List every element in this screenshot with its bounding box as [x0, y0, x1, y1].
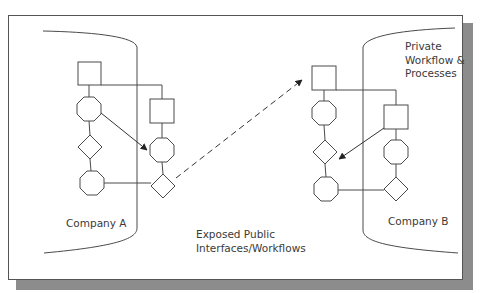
- b-square-1: [312, 66, 336, 90]
- company-a-label: Company A: [66, 217, 126, 231]
- b-diamond-1: [313, 140, 337, 164]
- a-square-2: [150, 99, 174, 123]
- a-square-1: [78, 62, 101, 85]
- b-octagon-1: [312, 101, 336, 125]
- public-interface-dashed-arrow: [176, 80, 302, 178]
- b-octagon-2: [314, 177, 338, 201]
- b-octagon-3: [384, 140, 408, 164]
- company-b-label: Company B: [388, 215, 449, 229]
- a-diamond-2: [151, 174, 175, 198]
- a-octagon-1: [77, 97, 101, 121]
- a-internal-arrow: [101, 113, 147, 150]
- private-workflow-label: Private Workflow & Processes: [405, 40, 465, 81]
- public-interfaces-label: Exposed Public Interfaces/Workflows: [196, 228, 306, 255]
- b-diamond-2: [384, 177, 408, 201]
- a-diamond-1: [78, 135, 102, 159]
- b-internal-arrow: [339, 128, 384, 159]
- a-octagon-3: [150, 138, 174, 162]
- b-square-2: [384, 105, 408, 129]
- a-octagon-2: [80, 171, 104, 195]
